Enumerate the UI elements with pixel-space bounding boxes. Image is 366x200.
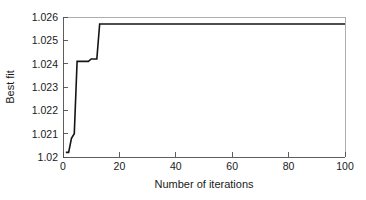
chart-plot: 1.026 1.025 1.024 1.023 1.022 1.021 1.02… xyxy=(0,0,366,200)
y-axis-ticks xyxy=(63,17,68,157)
best-fit-curve xyxy=(66,24,345,152)
x-axis-title: Number of iterations xyxy=(154,178,254,190)
y-axis-title: Best fit xyxy=(4,70,16,104)
y-tick-label-1021: 1.021 xyxy=(32,128,58,140)
x-tick-label-100: 100 xyxy=(336,160,354,172)
y-tick-label-1026: 1.026 xyxy=(32,11,58,23)
figure-container: 1.026 1.025 1.024 1.023 1.022 1.021 1.02… xyxy=(0,0,366,200)
y-tick-label-1022: 1.022 xyxy=(32,104,58,116)
x-tick-label-80: 80 xyxy=(283,160,295,172)
y-tick-label-102: 1.02 xyxy=(38,151,59,163)
x-tick-label-0: 0 xyxy=(60,160,66,172)
x-axis-ticks xyxy=(63,152,345,157)
x-tick-label-60: 60 xyxy=(226,160,238,172)
y-tick-label-1023: 1.023 xyxy=(32,81,58,93)
y-tick-label-1024: 1.024 xyxy=(32,58,58,70)
x-tick-label-20: 20 xyxy=(114,160,126,172)
y-tick-label-1025: 1.025 xyxy=(32,34,58,46)
x-tick-label-40: 40 xyxy=(170,160,182,172)
